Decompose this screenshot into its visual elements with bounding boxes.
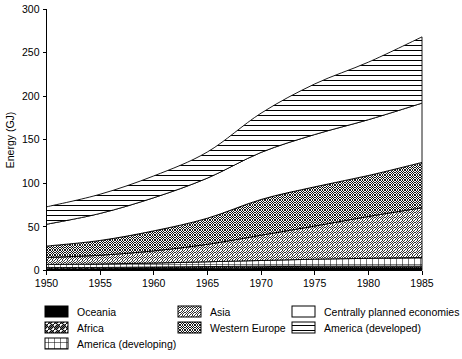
x-tick-label: 1955 [88, 277, 112, 289]
legend-label: Africa [77, 322, 104, 334]
legend-item: Africa [45, 322, 104, 334]
legend-item: Oceania [45, 306, 116, 318]
y-tick-group: 050100150200250300 [22, 3, 47, 277]
legend-label: America (developing) [77, 338, 176, 350]
x-tick-label: 1985 [410, 277, 434, 289]
legend-swatch [292, 306, 315, 317]
y-tick-label: 200 [22, 90, 40, 102]
y-axis-title: Energy (GJ) [4, 112, 16, 169]
plot-area [47, 37, 423, 271]
y-tick-label: 150 [22, 133, 40, 145]
chart-legend: OceaniaAfricaAmerica (developing)AsiaWes… [45, 306, 459, 350]
legend-swatch [178, 306, 201, 317]
legend-swatch [178, 322, 201, 333]
legend-label: Oceania [77, 306, 116, 318]
legend-item: America (developed) [292, 322, 421, 334]
chart-figure-root: 050100150200250300 Energy (GJ) 195019551… [0, 0, 462, 359]
legend-item: Centrally planned economies [292, 306, 459, 318]
y-tick-label: 300 [22, 3, 40, 15]
legend-label: Centrally planned economies [324, 306, 459, 318]
legend-item: America (developing) [45, 338, 176, 350]
y-tick-label: 250 [22, 46, 40, 58]
x-tick-label: 1980 [357, 277, 381, 289]
x-tick-label: 1965 [196, 277, 220, 289]
legend-label: Western Europe [210, 322, 286, 334]
legend-swatch [45, 306, 68, 317]
legend-label: Asia [210, 306, 231, 318]
legend-item: Western Europe [178, 322, 286, 334]
x-tick-label: 1975 [303, 277, 327, 289]
legend-swatch [292, 322, 315, 333]
x-tick-group: 19501955196019651970197519801985 [35, 271, 434, 289]
stacked-bands [47, 37, 423, 271]
y-axis: 050100150200250300 Energy (GJ) [4, 3, 47, 277]
x-tick-label: 1950 [35, 277, 59, 289]
legend-label: America (developed) [324, 322, 421, 334]
y-tick-label: 0 [34, 264, 40, 276]
y-tick-label: 100 [22, 177, 40, 189]
legend-swatch [45, 338, 68, 349]
x-tick-label: 1960 [142, 277, 166, 289]
legend-item: Asia [178, 306, 231, 318]
y-tick-label: 50 [28, 221, 40, 233]
x-axis: 19501955196019651970197519801985 [35, 271, 434, 289]
stacked-area-chart: 050100150200250300 Energy (GJ) 195019551… [0, 0, 462, 359]
x-tick-label: 1970 [249, 277, 273, 289]
legend-swatch [45, 322, 68, 333]
